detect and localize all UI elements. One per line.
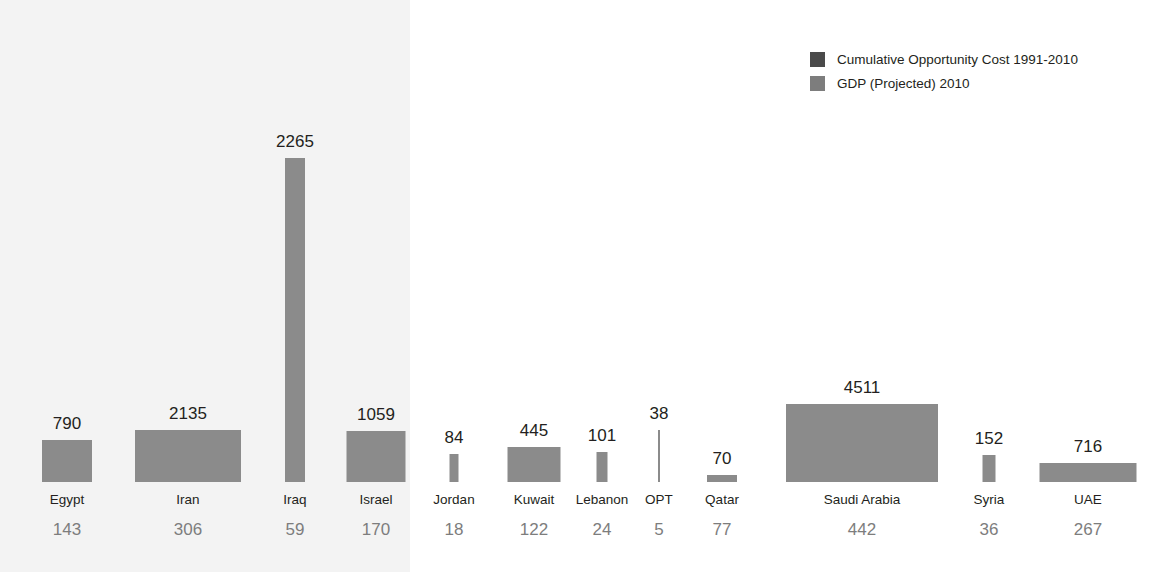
category-label: Jordan: [433, 493, 474, 507]
bar-value-label: 445: [520, 422, 548, 439]
bar-value-label: 84: [445, 429, 464, 446]
bar-rect[interactable]: [508, 447, 561, 482]
gdp-value-label: 24: [593, 521, 612, 538]
bar-rect-wrapper: [42, 440, 92, 482]
bar-rect[interactable]: [42, 440, 92, 482]
category-label: Iran: [176, 493, 199, 507]
bar-value-label: 716: [1074, 438, 1102, 455]
gdp-value-label: 5: [654, 521, 663, 538]
gdp-value-label: 122: [520, 521, 548, 538]
bar-rect[interactable]: [658, 430, 660, 482]
bar-rect[interactable]: [285, 158, 305, 482]
bar-rect-wrapper: [508, 447, 561, 482]
gdp-value-label: 59: [286, 521, 305, 538]
bar-value-label: 38: [650, 405, 669, 422]
plot-area: 790Egypt1432135Iran3062265Iraq591059Isra…: [0, 0, 1171, 572]
bar-value-label: 152: [975, 430, 1003, 447]
category-label: Egypt: [50, 493, 85, 507]
category-label: Saudi Arabia: [824, 493, 901, 507]
bar-value-label: 4511: [844, 379, 881, 396]
bar-rect[interactable]: [597, 452, 608, 482]
category-label: Kuwait: [514, 493, 555, 507]
bar-rect-wrapper: [450, 454, 459, 482]
category-label: Lebanon: [576, 493, 629, 507]
bar-value-label: 70: [713, 450, 732, 467]
category-label: OPT: [645, 493, 673, 507]
gdp-value-label: 143: [53, 521, 81, 538]
gdp-value-label: 170: [362, 521, 390, 538]
bar-value-label: 2135: [169, 405, 207, 422]
gdp-value-label: 36: [980, 521, 999, 538]
category-label: Syria: [974, 493, 1005, 507]
bar-value-label: 101: [588, 427, 616, 444]
bar-value-label: 790: [53, 415, 81, 432]
bar-rect[interactable]: [707, 475, 737, 482]
bar-rect-wrapper: [707, 475, 737, 482]
category-label: Israel: [359, 493, 392, 507]
bar-rect-wrapper: [1040, 463, 1137, 482]
gdp-value-label: 18: [445, 521, 464, 538]
bar-value-label: 1059: [357, 406, 395, 423]
bar-rect[interactable]: [983, 455, 996, 482]
category-label: UAE: [1074, 493, 1102, 507]
bar-rect-wrapper: [285, 158, 305, 482]
bar-rect-wrapper: [347, 431, 406, 482]
category-label: Iraq: [283, 493, 306, 507]
bar-rect-wrapper: [983, 455, 996, 482]
bar-rect[interactable]: [786, 404, 938, 482]
bar-rect[interactable]: [347, 431, 406, 482]
bar-value-label: 2265: [276, 133, 314, 150]
category-label: Qatar: [705, 493, 739, 507]
bar-rect[interactable]: [135, 430, 241, 482]
bar-rect-wrapper: [786, 404, 938, 482]
bar-rect-wrapper: [658, 430, 660, 482]
gdp-value-label: 306: [174, 521, 202, 538]
gdp-value-label: 442: [848, 521, 876, 538]
bar-rect-wrapper: [597, 452, 608, 482]
bar-rect-wrapper: [135, 430, 241, 482]
gdp-value-label: 77: [713, 521, 732, 538]
gdp-value-label: 267: [1074, 521, 1102, 538]
bar-rect[interactable]: [450, 454, 459, 482]
chart-root: Cumulative Opportunity Cost 1991-2010GDP…: [0, 0, 1171, 572]
bar-rect[interactable]: [1040, 463, 1137, 482]
